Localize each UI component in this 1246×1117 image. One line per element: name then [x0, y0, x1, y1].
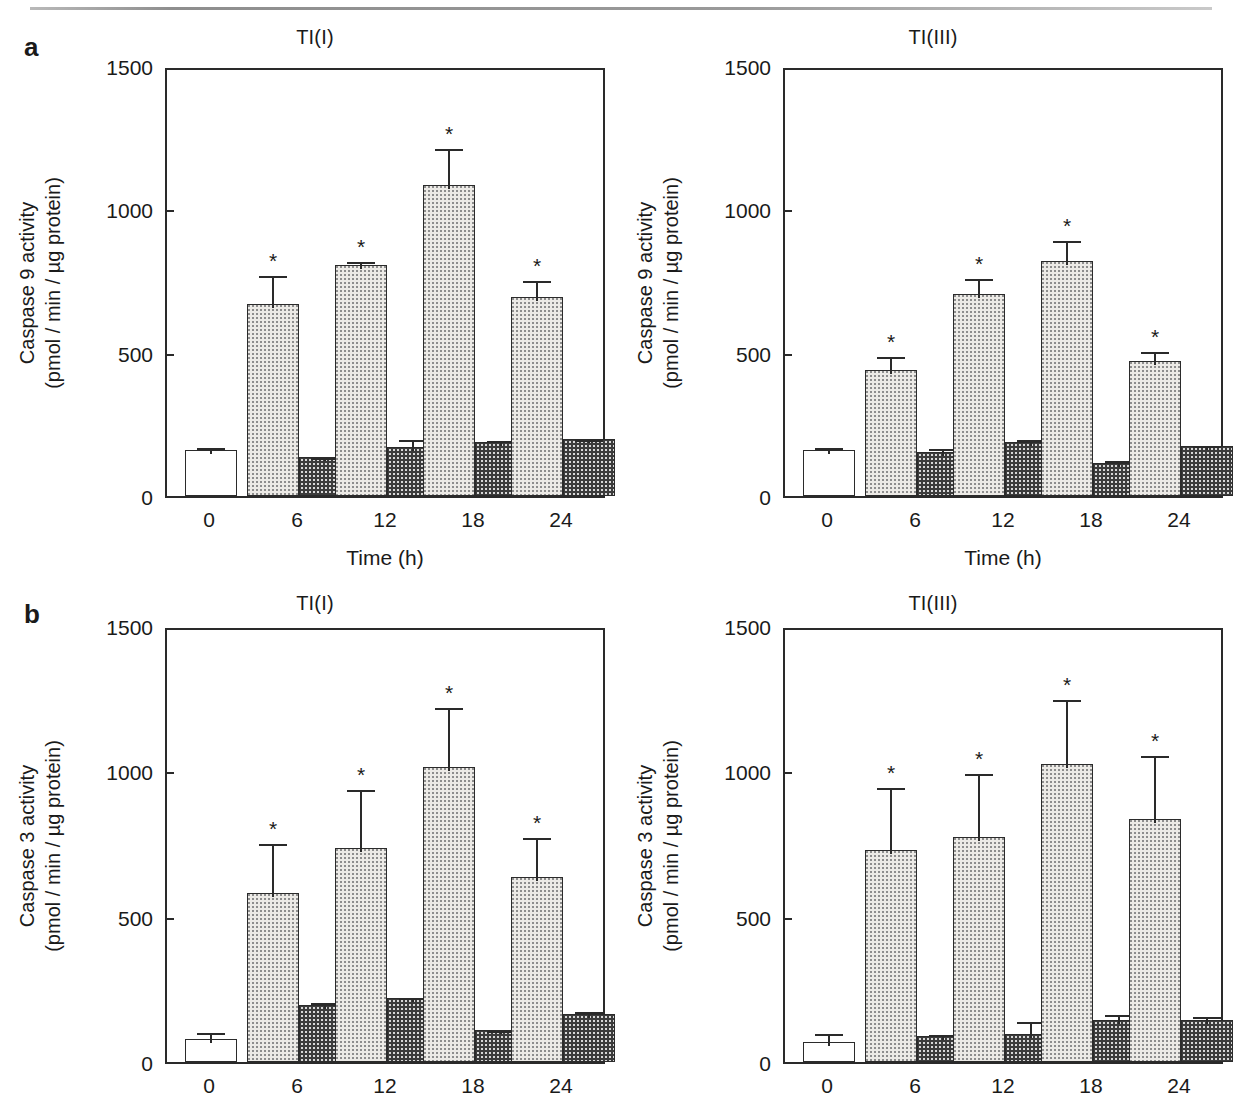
plot-area: ****	[783, 628, 1223, 1064]
x-tick-label: 12	[991, 1074, 1014, 1098]
error-bar-stem	[978, 774, 980, 841]
x-tick-label: 18	[461, 1074, 484, 1098]
x-tick-label: 24	[1167, 1074, 1190, 1098]
error-bar-cap	[347, 262, 375, 264]
bar-treated-light-dotted-6h	[247, 304, 299, 496]
significance-marker: *	[357, 764, 365, 785]
significance-marker: *	[269, 818, 277, 839]
x-tick-label: 12	[373, 508, 396, 532]
significance-marker: *	[1063, 674, 1071, 695]
plot-area: ****	[165, 68, 605, 498]
chart-a-right: TI(III)****050010001500Caspase 9 activit…	[628, 26, 1238, 566]
error-bar-cap	[575, 1012, 603, 1014]
error-bar-stem	[1154, 756, 1156, 823]
x-tick-label: 6	[291, 508, 303, 532]
bar-treated-light-dotted-12h	[953, 837, 1005, 1062]
error-bar-stem	[1066, 241, 1068, 265]
significance-marker: *	[1063, 215, 1071, 236]
x-tick-label: 6	[291, 1074, 303, 1098]
x-axis-title: Time (h)	[165, 546, 605, 570]
bar-treated-dark-checked-24h	[1181, 1020, 1233, 1062]
error-bar-cap	[815, 1034, 843, 1036]
error-bar-cap	[877, 357, 905, 359]
x-tick-label: 0	[821, 1074, 833, 1098]
chart-b-left: TI(I)****050010001500Caspase 3 activity(…	[10, 592, 620, 1112]
plot-area: ****	[783, 68, 1223, 498]
y-tick-mark	[783, 354, 792, 356]
y-axis-title-line1: Caspase 3 activity	[14, 628, 40, 1064]
chart-title: TI(III)	[628, 26, 1238, 49]
error-bar-stem	[272, 844, 274, 898]
error-bar-cap	[1193, 1017, 1221, 1019]
y-axis-title: Caspase 9 activity(pmol / min / µg prote…	[14, 68, 66, 498]
significance-marker: *	[1151, 730, 1159, 751]
error-bar-stem	[978, 279, 980, 298]
significance-marker: *	[887, 762, 895, 783]
y-axis-title-line2: (pmol / min / µg protein)	[40, 628, 66, 1064]
significance-marker: *	[1151, 326, 1159, 347]
bar-treated-light-dotted-12h	[335, 848, 387, 1062]
error-bar-stem	[536, 838, 538, 882]
y-tick-mark	[165, 772, 174, 774]
bar-treated-dark-checked-24h	[563, 1014, 615, 1062]
bar-treated-light-dotted-6h	[247, 893, 299, 1062]
bar-treated-light-dotted-24h	[1129, 361, 1181, 496]
error-bar-stem	[1030, 1022, 1032, 1038]
x-tick-label: 0	[203, 508, 215, 532]
error-bar-cap	[877, 788, 905, 790]
x-tick-label: 12	[991, 508, 1014, 532]
bar-treated-light-dotted-6h	[865, 850, 917, 1062]
bar-treated-light-dotted-24h	[511, 297, 563, 496]
error-bar-cap	[815, 448, 843, 450]
significance-marker: *	[445, 123, 453, 144]
x-tick-label: 24	[549, 508, 572, 532]
bar-treated-light-dotted-24h	[511, 877, 563, 1062]
error-bar-cap	[1193, 446, 1221, 448]
error-bar-cap	[1141, 352, 1169, 354]
error-bar-stem	[448, 708, 450, 770]
y-tick-mark	[165, 354, 174, 356]
error-bar-cap	[1141, 756, 1169, 758]
error-bar-stem	[536, 281, 538, 301]
chart-title: TI(I)	[10, 26, 620, 49]
bar-control-open-0h	[803, 450, 855, 496]
error-bar-stem	[890, 788, 892, 853]
plot-area: ****	[165, 628, 605, 1064]
header-divider	[30, 7, 1212, 10]
error-bar-cap	[259, 276, 287, 278]
x-tick-label: 6	[909, 508, 921, 532]
bar-treated-dark-checked-24h	[1181, 446, 1233, 496]
significance-marker: *	[269, 250, 277, 271]
error-bar-cap	[1053, 241, 1081, 243]
error-bar-cap	[259, 844, 287, 846]
y-axis-title-line1: Caspase 9 activity	[632, 68, 658, 498]
error-bar-cap	[197, 1033, 225, 1035]
error-bar-cap	[523, 281, 551, 283]
x-tick-label: 0	[203, 1074, 215, 1098]
y-tick-mark	[783, 918, 792, 920]
x-axis-title: Time (h)	[783, 546, 1223, 570]
y-axis-title-line1: Caspase 3 activity	[632, 628, 658, 1064]
y-axis-title: Caspase 3 activity(pmol / min / µg prote…	[632, 628, 684, 1064]
y-tick-mark	[165, 918, 174, 920]
bar-control-open-0h	[185, 450, 237, 496]
bar-treated-light-dotted-6h	[865, 370, 917, 496]
significance-marker: *	[445, 682, 453, 703]
bar-treated-light-dotted-12h	[953, 294, 1005, 496]
error-bar-cap	[197, 448, 225, 450]
x-tick-label: 12	[373, 1074, 396, 1098]
x-tick-label: 6	[909, 1074, 921, 1098]
x-tick-label: 18	[1079, 1074, 1102, 1098]
bar-treated-light-dotted-18h	[423, 185, 475, 496]
chart-title: TI(III)	[628, 592, 1238, 615]
error-bar-cap	[347, 790, 375, 792]
y-axis-title-line2: (pmol / min / µg protein)	[658, 628, 684, 1064]
significance-marker: *	[887, 331, 895, 352]
y-axis-title: Caspase 9 activity(pmol / min / µg prote…	[632, 68, 684, 498]
y-tick-mark	[783, 772, 792, 774]
significance-marker: *	[975, 253, 983, 274]
y-axis-title: Caspase 3 activity(pmol / min / µg prote…	[14, 628, 66, 1064]
significance-marker: *	[533, 812, 541, 833]
chart-a-left: TI(I)****050010001500Caspase 9 activity(…	[10, 26, 620, 566]
bar-treated-light-dotted-12h	[335, 265, 387, 496]
